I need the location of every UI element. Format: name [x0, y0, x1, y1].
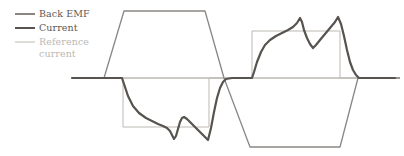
legend-item-reference-current: Reference current — [14, 36, 134, 60]
legend-item-current: Current — [14, 22, 134, 35]
waveform-figure: Back EMF Current Reference current — [0, 0, 404, 156]
legend: Back EMF Current Reference current — [14, 8, 134, 61]
legend-swatch-current-icon — [14, 22, 36, 34]
legend-item-back-emf: Back EMF — [14, 8, 134, 21]
legend-label-current: Current — [36, 22, 78, 34]
legend-swatch-back-emf-icon — [14, 8, 36, 20]
legend-swatch-reference-current-icon — [14, 36, 36, 48]
legend-label-back-emf: Back EMF — [36, 8, 90, 20]
legend-label-reference-current: Reference current — [36, 36, 101, 60]
